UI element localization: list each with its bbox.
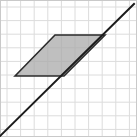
figure-canvas [0,0,137,137]
geometry-figure [0,0,137,137]
